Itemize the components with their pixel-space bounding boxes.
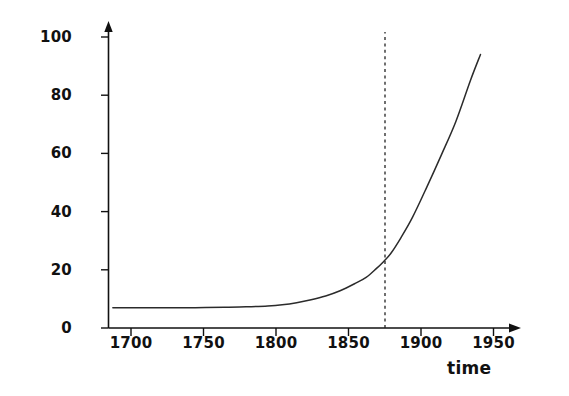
y-tick-label-40: 40 <box>51 203 72 221</box>
x-tick-label-1750: 1750 <box>182 334 225 352</box>
y-axis-arrow-icon <box>104 21 112 32</box>
chart-figure: 0 20 40 60 80 100 1700 1750 1800 1850 19… <box>0 0 569 396</box>
x-tick-label-1850: 1850 <box>327 334 370 352</box>
y-tick-label-80: 80 <box>51 86 72 104</box>
y-tick-label-60: 60 <box>51 144 72 162</box>
x-tick-label-1800: 1800 <box>255 334 298 352</box>
y-tick-label-20: 20 <box>51 261 72 279</box>
x-axis-arrow-icon <box>509 324 521 333</box>
damage-curve <box>113 55 481 308</box>
y-tick-label-100: 100 <box>40 28 72 46</box>
x-axis-title: time <box>447 358 491 378</box>
y-tick-label-0: 0 <box>61 319 72 337</box>
x-tick-label-1950: 1950 <box>472 334 515 352</box>
x-tick-label-1700: 1700 <box>110 334 153 352</box>
y-axis-ticks <box>101 37 109 328</box>
x-tick-label-1900: 1900 <box>400 334 443 352</box>
